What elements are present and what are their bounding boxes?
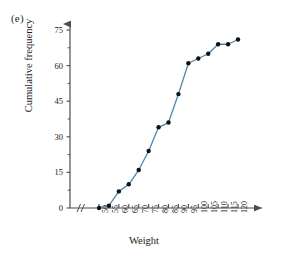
- data-point: [196, 56, 200, 60]
- data-point-group: [97, 37, 240, 210]
- data-point: [97, 206, 101, 210]
- data-point: [236, 37, 240, 41]
- data-point: [127, 182, 131, 186]
- axes: [70, 24, 262, 208]
- data-point: [216, 42, 220, 46]
- plot-area: [0, 0, 288, 257]
- data-point: [186, 61, 190, 65]
- data-point: [146, 149, 150, 153]
- data-point: [176, 92, 180, 96]
- data-point: [206, 52, 210, 56]
- data-point: [226, 42, 230, 46]
- data-point: [107, 203, 111, 207]
- data-point: [166, 120, 170, 124]
- figure-panel: (e) Cumulative frequency Weight 01530456…: [0, 0, 288, 257]
- data-point: [117, 189, 121, 193]
- tick-marks: [67, 30, 239, 208]
- data-point: [137, 168, 141, 172]
- data-point: [156, 125, 160, 129]
